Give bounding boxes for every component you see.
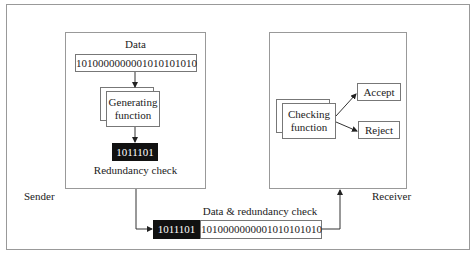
connector-arrows: [0, 0, 476, 254]
